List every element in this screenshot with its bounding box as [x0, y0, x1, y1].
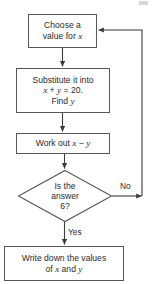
edge-label-no: No [120, 182, 131, 191]
equation-tail: = 20. [61, 85, 83, 95]
variable-y: y [71, 96, 75, 106]
node-decision-label: Is the answer 6? [18, 170, 112, 222]
node-work-out: Work out x − y [16, 133, 110, 154]
flowchart-diagram: Choose a value for x Substitute it intox… [0, 0, 154, 284]
find-word: Find [51, 96, 70, 106]
edge-label-yes: Yes [68, 228, 82, 237]
node-substitute-label: Substitute it intox + y = 20.Find y [30, 75, 95, 107]
of-word: of [46, 264, 56, 274]
variable-y: y [78, 264, 82, 274]
minus-operator: − [76, 138, 86, 148]
node-choose-value: Choose a value for x [28, 14, 97, 48]
work-out-word: Work out [36, 138, 73, 148]
node-substitute: Substitute it intox + y = 20.Find y [16, 68, 110, 113]
variable-y: y [86, 138, 90, 148]
substitute-line1: Substitute it into [32, 75, 93, 85]
node-choose-value-label: Choose a value for x [41, 20, 84, 41]
node-decision-is-answer-6: Is the answer 6? [18, 170, 112, 222]
node-write-down-values-label: Write down the valuesof x and y [20, 253, 108, 274]
node-write-down-values: Write down the valuesof x and y [4, 246, 124, 281]
node-work-out-label: Work out x − y [34, 138, 93, 149]
plus-operator: + [47, 85, 57, 95]
variable-x: x [78, 31, 82, 41]
write-line1: Write down the values [22, 253, 106, 263]
image-artifact [139, 1, 148, 5]
and-word: and [59, 264, 78, 274]
